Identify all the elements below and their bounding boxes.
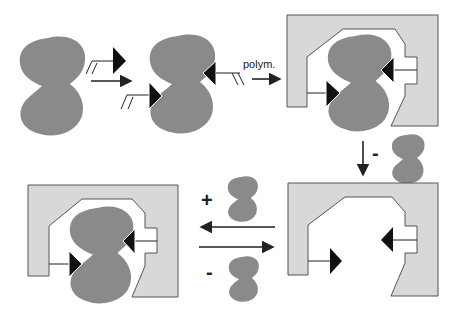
- release-minus-sign: -: [206, 262, 213, 282]
- rebinding-template: [228, 176, 258, 221]
- prearranged-complex: [149, 35, 244, 134]
- diagram-graphics: [0, 0, 460, 315]
- rebinding-plus-sign: +: [201, 190, 213, 210]
- released-template: [229, 256, 259, 301]
- removed-template: [392, 134, 425, 183]
- empty-cavity-box: [288, 183, 438, 296]
- template-molecule: [20, 37, 85, 136]
- polymerization-label: polym.: [243, 58, 275, 70]
- imprinting-diagram: polym. - + -: [0, 0, 460, 315]
- rebound-polymer-box: [28, 185, 178, 304]
- functional-monomer-upper: [86, 47, 126, 74]
- imprinted-polymer-box: [287, 15, 438, 132]
- functional-monomer-lower: [121, 95, 150, 109]
- removal-minus-sign: -: [372, 143, 379, 163]
